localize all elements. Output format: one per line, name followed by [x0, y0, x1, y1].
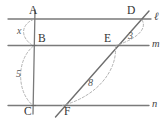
- arc-5-bc: [21, 46, 34, 105]
- line-label-l: ℓ: [154, 11, 159, 22]
- point-label-e: E: [104, 33, 111, 44]
- point-label-b: B: [38, 33, 46, 44]
- point-label-d: D: [127, 5, 135, 16]
- point-label-c: C: [24, 106, 32, 117]
- geometry-figure: A B C D E F ℓ m n x 5 3 8: [0, 0, 165, 123]
- point-label-f: F: [64, 106, 70, 117]
- line-label-n: n: [152, 98, 157, 109]
- measure-label-8: 8: [88, 77, 93, 88]
- measure-label-x: x: [17, 25, 21, 36]
- measure-label-3: 3: [128, 30, 133, 41]
- transversal-def: [56, 11, 150, 117]
- point-label-a: A: [29, 5, 37, 16]
- measure-label-5: 5: [16, 68, 21, 79]
- transversal-abc: [33, 10, 35, 114]
- arc-x-ab: [24, 20, 34, 46]
- line-label-m: m: [152, 38, 160, 49]
